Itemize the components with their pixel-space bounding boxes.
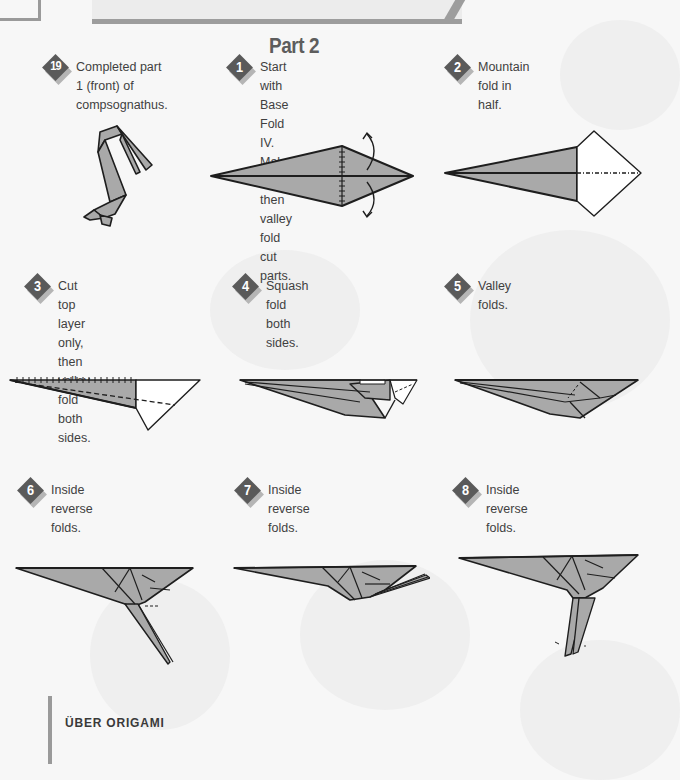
- step-number: 19: [45, 58, 66, 73]
- step-instruction: Mountain fold in half.: [478, 58, 529, 115]
- step-instruction: Completed part 1 (front) of compsognathu…: [76, 58, 168, 115]
- cut-top-layer-figure: [5, 372, 205, 432]
- background-blob: [560, 20, 680, 130]
- step-number-badge: 6: [18, 478, 46, 506]
- footer-book-title: ÜBER ORIGAMI: [65, 716, 165, 730]
- squash-fold-figure: [235, 370, 425, 430]
- top-banner: [92, 0, 462, 24]
- step-number-badge: 2: [445, 55, 473, 83]
- step-instruction: Inside reverse folds.: [51, 481, 93, 538]
- step-number-badge: 1: [227, 55, 255, 83]
- step-number-badge: 19: [43, 55, 71, 83]
- step-number: 5: [447, 277, 468, 294]
- mountain-fold-kite: [440, 125, 650, 225]
- step-number: 7: [237, 481, 258, 498]
- valley-folds-figure: [450, 370, 650, 430]
- step-number-badge: 4: [233, 274, 261, 302]
- part-title: Part 2: [269, 33, 319, 59]
- step-instruction: Inside reverse folds.: [268, 481, 310, 538]
- inside-reverse-fold-figure-6: [10, 560, 210, 670]
- step-number-badge: 7: [235, 478, 263, 506]
- step-number: 1: [229, 58, 250, 75]
- inside-reverse-fold-figure-7: [230, 560, 430, 620]
- footer-rule: [48, 696, 52, 764]
- inside-reverse-fold-figure-8: [455, 550, 655, 665]
- step-number: 6: [20, 481, 41, 498]
- step-number: 8: [455, 481, 476, 498]
- step-number: 4: [235, 277, 256, 294]
- step-number: 2: [447, 58, 468, 75]
- step-number-badge: 8: [453, 478, 481, 506]
- base-fold-iv-kite: [205, 130, 425, 220]
- step-number-badge: 5: [445, 274, 473, 302]
- top-frame-corner: [0, 0, 41, 21]
- step-instruction: Inside reverse folds.: [486, 481, 528, 538]
- step-number-badge: 3: [25, 274, 53, 302]
- step-instruction: Valley folds.: [478, 277, 511, 315]
- completed-part-1-figure: [60, 120, 170, 230]
- step-instruction: Squash fold both sides.: [266, 277, 308, 353]
- step-number: 3: [27, 277, 48, 294]
